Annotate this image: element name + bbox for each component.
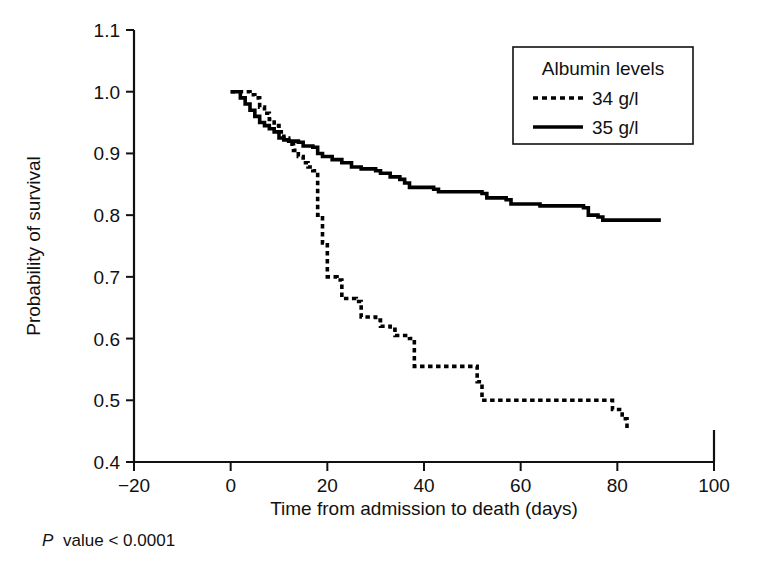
x-axis-title: Time from admission to death (days) — [270, 498, 578, 519]
x-tick-label: 0 — [225, 475, 236, 496]
y-axis-title: Probability of survival — [23, 156, 44, 336]
x-tick-label: 40 — [413, 475, 434, 496]
p-value-rest: value < 0.0001 — [63, 531, 175, 550]
survival-chart: 0.40.50.60.70.80.91.01.1 −20020406080100… — [0, 0, 768, 569]
y-tick-label: 1.1 — [94, 20, 120, 41]
kaplan-meier-figure: 0.40.50.60.70.80.91.01.1 −20020406080100… — [0, 0, 768, 569]
y-tick-label: 0.5 — [94, 390, 120, 411]
x-tick-label: 20 — [317, 475, 338, 496]
x-tick-label: −20 — [118, 475, 150, 496]
y-axis-ticks: 0.40.50.60.70.80.91.01.1 — [94, 20, 134, 473]
x-tick-label: 80 — [607, 475, 628, 496]
y-tick-label: 0.8 — [94, 205, 120, 226]
y-tick-label: 0.7 — [94, 267, 120, 288]
x-tick-label: 100 — [698, 475, 730, 496]
y-tick-label: 0.4 — [94, 452, 121, 473]
y-tick-label: 0.9 — [94, 143, 120, 164]
x-tick-label: 60 — [510, 475, 531, 496]
legend-label-35: 35 g/l — [592, 117, 638, 138]
y-tick-label: 0.6 — [94, 329, 120, 350]
legend-label-34: 34 g/l — [592, 88, 638, 109]
p-value-italic-prefix: P — [42, 531, 54, 550]
legend: Albumin levels 34 g/l 35 g/l — [513, 47, 693, 144]
p-value-annotation: P value < 0.0001 — [42, 531, 175, 550]
x-axis-ticks: −20020406080100 — [118, 462, 730, 496]
y-tick-label: 1.0 — [94, 82, 120, 103]
legend-title: Albumin levels — [542, 58, 665, 79]
